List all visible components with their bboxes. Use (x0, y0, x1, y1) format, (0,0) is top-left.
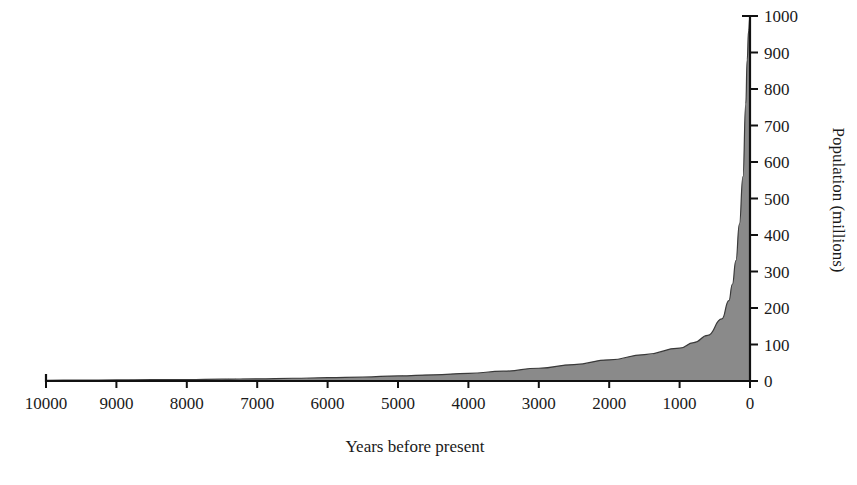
x-tick-label: 5000 (381, 394, 415, 413)
y-tick-label: 800 (764, 80, 790, 99)
x-axis-title: Years before present (346, 437, 485, 456)
chart-svg: 1000090008000700060005000400030002000100… (0, 0, 857, 485)
y-tick-label: 900 (764, 44, 790, 63)
x-tick-label: 9000 (99, 394, 133, 413)
x-tick-label: 8000 (170, 394, 204, 413)
population-area-series (46, 16, 750, 381)
y-tick-label: 400 (764, 226, 790, 245)
y-tick-label: 200 (764, 299, 790, 318)
x-tick-label: 7000 (240, 394, 274, 413)
area-outline-shape (46, 16, 750, 380)
x-tick-label: 1000 (663, 394, 697, 413)
x-tick-label: 4000 (451, 394, 485, 413)
population-chart: 1000090008000700060005000400030002000100… (0, 0, 857, 485)
y-tick-label: 700 (764, 117, 790, 136)
y-tick-label: 500 (764, 190, 790, 209)
y-tick-label: 100 (764, 336, 790, 355)
y-axis-title: Population (millions) (829, 128, 848, 273)
y-tick-label: 600 (764, 153, 790, 172)
y-tick-label: 0 (764, 372, 773, 391)
y-tick-label: 1000 (764, 7, 798, 26)
x-tick-label: 0 (746, 394, 755, 413)
y-axis: 01002003004005006007008009001000 (742, 7, 798, 391)
x-tick-label: 10000 (25, 394, 68, 413)
area-fill-shape (46, 16, 750, 381)
x-tick-label: 6000 (311, 394, 345, 413)
x-tick-label: 2000 (592, 394, 626, 413)
x-tick-label: 3000 (522, 394, 556, 413)
y-tick-label: 300 (764, 263, 790, 282)
